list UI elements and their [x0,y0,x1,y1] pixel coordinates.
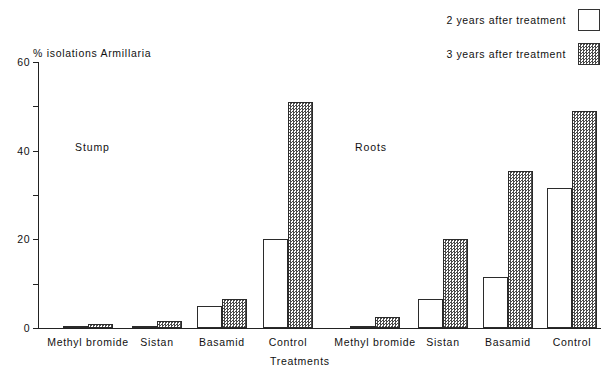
y-tick-label-60: 60 [8,56,30,68]
bar [375,317,400,328]
y-axis-title: % isolations Armillaria [33,47,151,59]
x-axis-category-label: Control [553,336,592,348]
legend-label-3-years: 3 years after treatment [447,48,566,60]
y-tick-10 [33,284,39,285]
y-tick-label-40: 40 [8,145,30,157]
white-square-icon [578,9,600,31]
hatched-square-icon [578,43,600,65]
x-axis-category-label: Methyl bromide [334,336,416,348]
y-tick-30 [33,195,39,196]
y-tick-60 [33,62,39,63]
bar [418,299,443,328]
x-axis-category-label: Basamid [199,336,245,348]
chart-figure: 2 years after treatment 3 years after tr… [0,0,611,371]
y-tick-0 [33,328,39,329]
y-tick-40 [33,151,39,152]
bar [508,171,533,328]
bar [350,326,375,328]
bar [157,321,182,328]
y-tick-label-20: 20 [8,233,30,245]
legend-item-2-years: 2 years after treatment [340,8,600,32]
y-tick-50 [33,106,39,107]
legend-item-3-years: 3 years after treatment [340,42,600,66]
bar [132,326,157,328]
x-axis-category-label: Sistan [140,336,173,348]
bar [222,299,247,328]
chart-legend: 2 years after treatment 3 years after tr… [340,8,600,76]
x-axis-category-label: Control [269,336,308,348]
bar [88,324,113,328]
x-axis-category-label: Basamid [485,336,531,348]
x-axis-category-label: Methyl bromide [47,336,129,348]
x-axis-line [38,328,601,329]
bar [197,306,222,328]
y-tick-label-0: 0 [8,322,30,334]
bar [263,239,288,328]
bar [572,111,597,328]
bar [443,239,468,328]
x-axis-title: Treatments [270,355,330,367]
bar [483,277,508,328]
y-tick-20 [33,239,39,240]
bar [63,326,88,328]
group-label-stump: Stump [75,141,110,153]
bar [547,188,572,328]
group-label-roots: Roots [355,141,387,153]
x-axis-category-label: Sistan [426,336,459,348]
legend-label-2-years: 2 years after treatment [447,14,566,26]
bar [288,102,313,328]
